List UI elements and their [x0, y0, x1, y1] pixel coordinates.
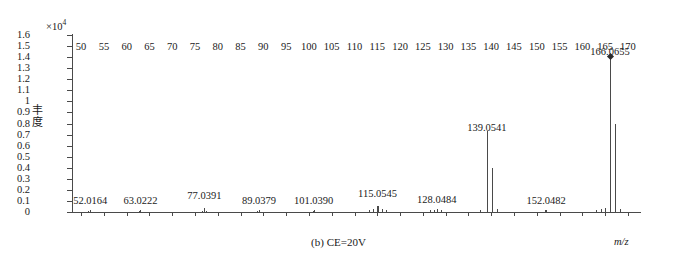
x-axis-tick	[377, 212, 378, 216]
spectrum-peak	[139, 211, 140, 212]
y-axis-tick-label: 0.5	[0, 152, 30, 162]
x-axis-tick	[127, 212, 128, 216]
spectrum-peak	[382, 209, 383, 212]
y-axis-tick-label: 0.7	[0, 130, 30, 140]
spectrum-peak-labeled	[314, 210, 315, 212]
y-axis-tick	[67, 101, 72, 102]
y-axis-tick-label: 1.5	[0, 41, 30, 51]
x-axis-tick	[218, 212, 219, 216]
spectrum-peak	[434, 210, 435, 212]
y-axis-tick	[67, 124, 72, 125]
y-axis-tick-label: 0.4	[0, 163, 30, 173]
y-axis-tick	[67, 135, 72, 136]
spectrum-peak-labeled	[90, 210, 91, 212]
y-axis-tick-label: 1.3	[0, 63, 30, 73]
y-axis-tick-label: 0.1	[0, 196, 30, 206]
spectrum-peak	[373, 209, 374, 212]
spectrum-peak	[497, 209, 498, 212]
x-axis-tick	[628, 212, 629, 216]
peak-label: 152.0482	[511, 195, 581, 206]
peak-label: 139.0541	[452, 122, 522, 133]
plot-area: 00.10.20.30.40.50.60.70.80.911.11.21.31.…	[72, 35, 637, 212]
y-axis-tick	[67, 190, 72, 191]
y-axis-tick-label: 0.6	[0, 141, 30, 151]
x-axis-tick	[491, 212, 492, 216]
x-axis-tick	[309, 212, 310, 216]
figure-caption: (b) CE=20V	[0, 236, 677, 248]
y-axis-tick	[67, 179, 72, 180]
x-axis-tick	[423, 212, 424, 216]
spectrum-peak-labeled	[546, 210, 547, 212]
spectrum-peak	[492, 168, 493, 212]
spectrum-peak	[202, 211, 203, 212]
spectrum-peak-labeled	[259, 210, 260, 212]
spectrum-peak-labeled	[378, 206, 379, 212]
x-axis-tick	[172, 212, 173, 216]
x-axis-tick	[241, 212, 242, 216]
spectrum-peak	[386, 210, 387, 212]
x-axis-tick	[355, 212, 356, 216]
y-axis-tick	[67, 57, 72, 58]
y-axis-tick-label: 0.3	[0, 174, 30, 184]
y-axis-tick	[67, 168, 72, 169]
peak-label: 63.0222	[105, 195, 175, 206]
spectrum-peak	[480, 210, 481, 212]
y-axis-tick	[67, 79, 72, 80]
y-axis-tick-label: 0.9	[0, 107, 30, 117]
y-axis-tick	[67, 146, 72, 147]
y-axis-tick	[67, 112, 72, 113]
spectrum-peak-labeled	[140, 210, 141, 212]
spectrum-peak-labeled	[487, 131, 488, 212]
y-axis-tick	[67, 157, 72, 158]
x-axis-tick	[468, 212, 469, 216]
y-axis-tick	[67, 212, 72, 213]
x-axis-tick	[104, 212, 105, 216]
y-axis-tick-label: 1.2	[0, 74, 30, 84]
x-axis-tick	[286, 212, 287, 216]
y-axis-title-char-1: 丰度	[30, 104, 44, 128]
x-axis-tick	[263, 212, 264, 216]
y-axis-title: 丰度	[30, 104, 44, 128]
y-axis-tick-label: 0.8	[0, 119, 30, 129]
x-axis-tick	[332, 212, 333, 216]
y-axis-tick-label: 1	[0, 96, 30, 106]
spectrum-peak	[88, 211, 89, 212]
y-axis-tick-label: 1.1	[0, 85, 30, 95]
y-axis-exponent-power: 4	[62, 18, 66, 27]
y-axis-tick	[67, 90, 72, 91]
x-axis-tick	[149, 212, 150, 216]
spectrum-peak-labeled	[437, 209, 438, 212]
x-axis-tick	[560, 212, 561, 216]
spectrum-peak-labeled	[204, 208, 205, 212]
y-axis-tick-label: 1.6	[0, 30, 30, 40]
x-axis-tick	[537, 212, 538, 216]
spectrum-peak-labeled	[610, 57, 611, 212]
spectrum-peak	[441, 210, 442, 212]
spectrum-peak	[615, 124, 616, 213]
x-axis-tick	[605, 212, 606, 216]
x-axis-tick	[582, 212, 583, 216]
spectrum-peak	[206, 211, 207, 212]
y-axis-exponent-prefix: ×10	[46, 21, 62, 32]
x-axis-tick	[400, 212, 401, 216]
x-axis-tick	[81, 212, 82, 216]
x-axis-tick	[195, 212, 196, 216]
y-axis-tick	[67, 68, 72, 69]
y-axis-tick-label: 1.4	[0, 52, 30, 62]
x-axis-title: m/z	[614, 236, 629, 247]
spectrum-peak	[601, 209, 602, 212]
spectrum-peak	[596, 210, 597, 212]
y-axis-exponent: ×104	[46, 18, 66, 32]
y-axis-tick	[67, 35, 72, 36]
x-axis-tick	[446, 212, 447, 216]
spectrum-peak	[605, 208, 606, 212]
y-axis-tick-label: 0.2	[0, 185, 30, 195]
x-axis-tick	[514, 212, 515, 216]
y-axis-tick-label: 0	[0, 207, 30, 217]
spectrum-peak	[430, 210, 431, 212]
peak-label: 128.0484	[402, 194, 472, 205]
spectrum-peak	[620, 209, 621, 212]
x-axis-line	[72, 212, 641, 213]
spectrum-peak	[369, 210, 370, 212]
mass-spectrum-figure: ×104 丰度 00.10.20.30.40.50.60.70.80.911.1…	[0, 0, 677, 259]
